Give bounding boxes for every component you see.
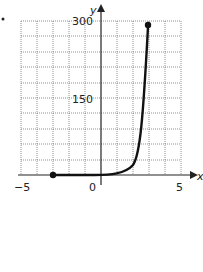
y-tick-150: 150 [72,93,93,106]
x-axis-label: x [196,170,203,183]
x-tick-max: 5 [176,181,183,194]
stray-dot [2,18,5,21]
right-endpoint [145,22,151,28]
chart: y x 300 150 −5 0 5 [0,0,203,272]
x-tick-min: −5 [14,181,30,194]
axes [18,8,193,185]
y-axis-arrow [97,4,105,12]
left-endpoint [50,172,56,178]
x-tick-origin: 0 [89,181,96,194]
y-tick-300: 300 [72,15,93,28]
